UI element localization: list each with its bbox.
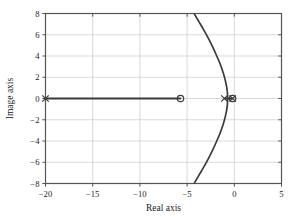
y-axis-title: Image axis — [5, 77, 15, 119]
plot-canvas: −20−15−10−505−8−6−4−202468Real axisImage… — [0, 0, 300, 217]
y-tick-label: −4 — [30, 136, 40, 146]
x-tick-label: 5 — [279, 189, 283, 199]
x-tick-label: −10 — [133, 189, 146, 199]
x-tick-label: 0 — [232, 189, 236, 199]
y-tick-label: −6 — [30, 157, 40, 167]
x-axis-title: Real axis — [146, 203, 181, 213]
y-tick-label: 8 — [35, 9, 39, 19]
y-tick-label: 6 — [35, 30, 40, 40]
x-tick-label: −20 — [39, 189, 52, 199]
y-tick-label: −8 — [30, 179, 39, 189]
y-tick-label: −2 — [30, 115, 39, 125]
root-locus-figure: −20−15−10−505−8−6−4−202468Real axisImage… — [0, 0, 300, 217]
y-tick-label: 2 — [35, 72, 39, 82]
x-tick-label: −5 — [183, 189, 192, 199]
x-tick-label: −15 — [86, 189, 99, 199]
y-tick-label: 4 — [35, 51, 40, 61]
y-tick-label: 0 — [35, 94, 39, 104]
